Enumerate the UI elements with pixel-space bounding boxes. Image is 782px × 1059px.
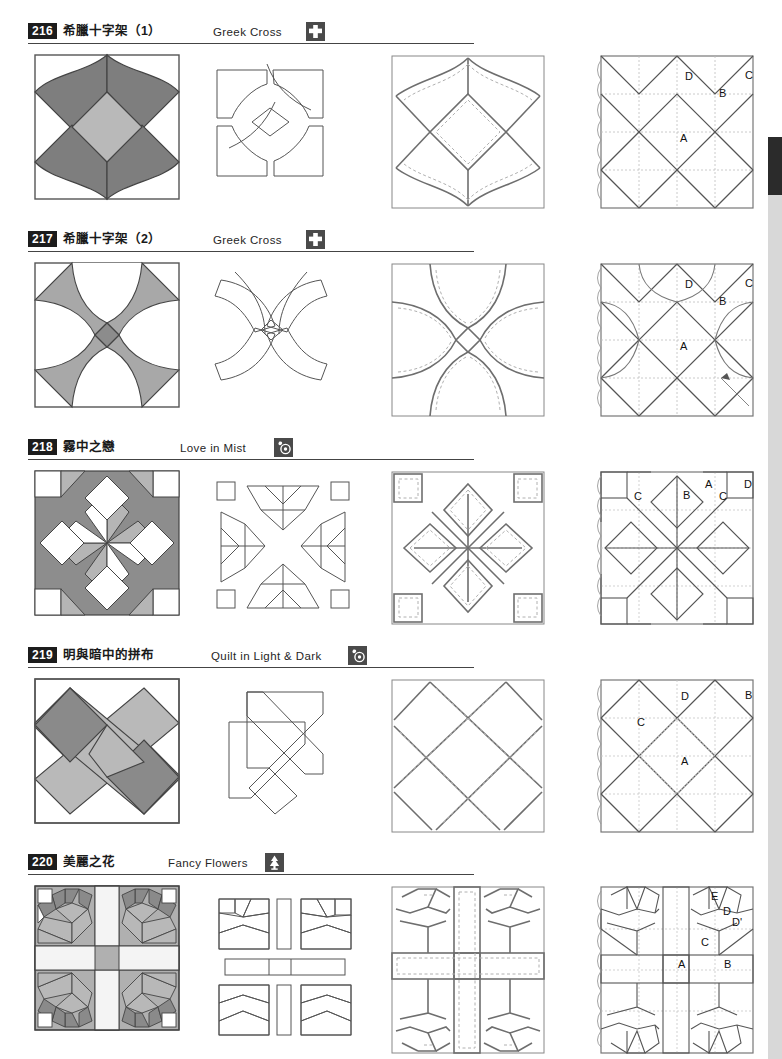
seam-allowance-220 [388, 883, 548, 1058]
finished-block-219 [32, 676, 182, 831]
finished-block-216 [32, 52, 182, 207]
flower-swirl-icon [348, 646, 367, 665]
flower-swirl-icon [274, 438, 293, 457]
pattern-title-chinese: 明與暗中的拼布 [63, 647, 154, 663]
piece-label: B [719, 295, 726, 307]
piece-label: A [678, 958, 686, 970]
seam-allowance-217 [388, 260, 548, 420]
pattern-title-chinese: 美麗之花 [63, 854, 115, 870]
piece-label: A [681, 755, 689, 767]
section-header: 220 美麗之花 Fancy Flowers [28, 853, 750, 875]
seam-allowance-219 [388, 676, 548, 836]
finished-block-220 [32, 883, 182, 1043]
pattern-title-english: Fancy Flowers [168, 855, 248, 871]
pattern-title-chinese: 希臘十字架（2） [63, 231, 161, 247]
seam-allowance-218 [388, 468, 548, 628]
label-diagram-216: A B C D [597, 52, 757, 212]
pattern-title-english: Greek Cross [213, 232, 282, 248]
pattern-title-chinese: 霧中之戀 [63, 439, 115, 455]
seam-allowance-216 [388, 52, 548, 212]
tree-icon [265, 853, 284, 872]
piece-label: B [724, 958, 731, 970]
piece-label: C [745, 277, 753, 289]
pattern-number-badge: 216 [28, 23, 57, 39]
label-diagram-217: A B C D [597, 260, 757, 420]
section-header: 218 霧中之戀 Love in Mist [28, 438, 750, 460]
template-pieces-217 [205, 260, 355, 415]
piece-label: C [719, 490, 727, 502]
piece-label: A [705, 478, 713, 490]
section-header: 219 明與暗中的拼布 Quilt in Light & Dark [28, 646, 750, 668]
piece-label: D [681, 690, 689, 702]
finished-block-217 [32, 260, 182, 415]
piece-label: D [744, 478, 752, 490]
pattern-title-chinese: 希臘十字架（1） [63, 23, 161, 39]
section-header: 216 希臘十字架（1） Greek Cross [28, 22, 750, 44]
template-pieces-219 [205, 676, 355, 831]
piece-label: D [723, 905, 731, 917]
pattern-title-english: Love in Mist [180, 440, 246, 456]
label-diagram-220: E D D' C A B [597, 883, 757, 1058]
piece-label: D [685, 278, 693, 290]
piece-label: B [745, 689, 752, 701]
piece-label: E [711, 890, 718, 902]
section-rule [28, 251, 474, 252]
template-pieces-218 [205, 468, 365, 628]
pattern-number-badge: 220 [28, 854, 57, 870]
edge-thumb-tab [768, 137, 782, 195]
section-rule [28, 459, 474, 460]
piece-label: D [685, 70, 693, 82]
pattern-title-english: Greek Cross [213, 24, 282, 40]
template-pieces-216 [205, 52, 355, 207]
edge-thumb-strip [768, 195, 782, 1059]
section-header: 217 希臘十字架（2） Greek Cross [28, 230, 750, 252]
pattern-number-badge: 219 [28, 647, 57, 663]
piece-label: A [680, 340, 688, 352]
piece-label: B [683, 489, 690, 501]
pattern-number-badge: 218 [28, 439, 57, 455]
quilt-pattern-page: 216 希臘十字架（1） Greek Cross [0, 0, 782, 1059]
pattern-number-badge: 217 [28, 231, 57, 247]
piece-label: A [680, 132, 688, 144]
piece-label: B [719, 87, 726, 99]
cross-icon [306, 230, 325, 249]
cross-icon [306, 22, 325, 41]
template-pieces-220 [205, 883, 365, 1043]
section-rule [28, 43, 474, 44]
piece-label: C [745, 69, 753, 81]
section-rule [28, 667, 474, 668]
piece-label: D' [732, 916, 742, 928]
section-rule [28, 874, 474, 875]
piece-label: C [701, 936, 709, 948]
piece-label: C [637, 716, 645, 728]
label-diagram-218: A B C C D [597, 468, 757, 628]
pattern-title-english: Quilt in Light & Dark [211, 648, 322, 664]
label-diagram-219: A B C D [597, 676, 757, 836]
piece-label: C [634, 490, 642, 502]
finished-block-218 [32, 468, 182, 628]
